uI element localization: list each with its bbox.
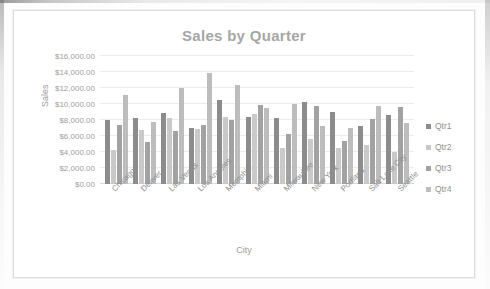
bar-group[interactable]: [102, 56, 130, 184]
y-axis-tick-label: $0.00: [75, 180, 95, 189]
bar-qtr2[interactable]: [364, 145, 369, 184]
legend-swatch-icon: [426, 166, 431, 171]
bar-qtr3[interactable]: [398, 107, 403, 184]
chart-legend[interactable]: Qtr1Qtr2Qtr3Qtr4: [426, 121, 474, 205]
bar-qtr2[interactable]: [111, 150, 116, 184]
legend-label: Qtr2: [435, 142, 452, 152]
chart-frame[interactable]: Sales by Quarter Sales $0.00$2,000.00$4,…: [13, 10, 475, 278]
bar-group[interactable]: [158, 56, 186, 184]
bar-qtr3[interactable]: [258, 105, 263, 184]
scan-edge-right: [485, 0, 490, 289]
bar-qtr1[interactable]: [105, 120, 110, 184]
bar-qtr4[interactable]: [235, 85, 240, 184]
bar-qtr3[interactable]: [201, 125, 206, 184]
bar-qtr2[interactable]: [252, 114, 257, 184]
bar-qtr3[interactable]: [314, 106, 319, 184]
legend-label: Qtr3: [435, 163, 452, 173]
bar-qtr2[interactable]: [223, 117, 228, 184]
legend-swatch-icon: [426, 145, 431, 150]
legend-item-qtr3[interactable]: Qtr3: [426, 163, 474, 173]
y-axis-tick-label: $14,000.00: [55, 68, 95, 77]
legend-swatch-icon: [426, 124, 431, 129]
legend-swatch-icon: [426, 187, 431, 192]
legend-item-qtr4[interactable]: Qtr4: [426, 184, 474, 194]
bar-qtr2[interactable]: [280, 148, 285, 184]
x-axis-tick-labels: ChicagoDenverLas VegasLos AngelesMemphis…: [100, 187, 414, 243]
bar-qtr4[interactable]: [207, 73, 212, 184]
y-axis-tick-label: $12,000.00: [55, 84, 95, 93]
y-axis-tick-label: $4,000.00: [59, 148, 95, 157]
bar-qtr3[interactable]: [370, 119, 375, 184]
legend-label: Qtr1: [435, 121, 452, 131]
y-axis-title: Sales: [40, 84, 50, 107]
plot-area: $0.00$2,000.00$4,000.00$6,000.00$8,000.0…: [100, 56, 414, 184]
bar-group[interactable]: [130, 56, 158, 184]
scanned-page: Sales by Quarter Sales $0.00$2,000.00$4,…: [0, 0, 490, 289]
y-axis-tick-label: $10,000.00: [55, 100, 95, 109]
y-axis-tick-label: $6,000.00: [59, 132, 95, 141]
legend-item-qtr2[interactable]: Qtr2: [426, 142, 474, 152]
bar-groups: [100, 56, 414, 184]
bar-qtr1[interactable]: [274, 118, 279, 184]
scan-edge-left: [0, 0, 4, 289]
bar-group[interactable]: [271, 56, 299, 184]
legend-item-qtr1[interactable]: Qtr1: [426, 121, 474, 131]
bar-qtr2[interactable]: [139, 130, 144, 184]
bar-qtr2[interactable]: [195, 129, 200, 184]
chart-title: Sales by Quarter: [14, 27, 474, 44]
y-axis-tick-label: $8,000.00: [59, 116, 95, 125]
y-axis-tick-label: $16,000.00: [55, 52, 95, 61]
bar-qtr3[interactable]: [342, 141, 347, 184]
bar-qtr2[interactable]: [167, 118, 172, 184]
x-axis-title: City: [14, 245, 474, 255]
scan-edge-top: [0, 0, 490, 3]
legend-label: Qtr4: [435, 184, 452, 194]
bar-qtr3[interactable]: [286, 134, 291, 184]
y-axis-tick-label: $2,000.00: [59, 164, 95, 173]
bar-qtr3[interactable]: [229, 120, 234, 184]
